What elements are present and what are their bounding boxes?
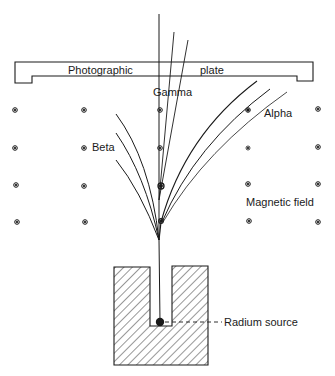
radium-source-dot <box>156 318 164 326</box>
field-marker-icon <box>82 146 87 151</box>
emission-beam <box>159 240 160 322</box>
field-marker-icon <box>13 108 18 113</box>
field-marker-icon <box>158 108 163 113</box>
photographic-plate <box>15 62 313 83</box>
field-marker-icon <box>83 220 88 225</box>
field-marker-icon <box>82 108 87 113</box>
magnetic-field-label: Magnetic field <box>246 196 314 208</box>
field-marker-icon <box>158 146 163 151</box>
field-marker-icon <box>246 182 251 187</box>
alpha-rays <box>159 81 287 240</box>
field-marker-icon <box>246 108 251 113</box>
plate-label-left: Photographic <box>68 64 133 76</box>
lead-block <box>114 266 208 365</box>
radium-source-label: Radium source <box>224 316 298 328</box>
gamma-label: Gamma <box>153 86 192 98</box>
field-marker-icon <box>246 146 250 150</box>
field-marker-icon <box>316 220 321 225</box>
plate-label-right: plate <box>200 64 224 76</box>
field-marker-icon <box>15 220 20 225</box>
field-marker-icon <box>247 219 252 224</box>
alpha-label: Alpha <box>264 107 292 119</box>
beta-label: Beta <box>92 141 115 153</box>
field-marker-icon <box>316 107 321 112</box>
field-marker-icon <box>316 145 321 150</box>
field-marker-icon <box>14 183 19 188</box>
field-marker-icon <box>316 182 321 187</box>
field-marker-icon <box>13 146 18 151</box>
beta-rays <box>116 114 159 240</box>
field-marker-icon <box>82 184 87 189</box>
gamma-rays <box>159 14 188 240</box>
